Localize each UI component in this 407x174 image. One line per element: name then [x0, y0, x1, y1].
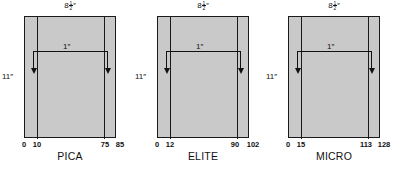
paper-sheet: [288, 16, 380, 138]
fraction-denominator: 2: [69, 6, 73, 10]
scale-left-margin: 15: [293, 140, 309, 149]
right-margin-rule: [237, 16, 238, 139]
inch-mark: ″: [73, 2, 75, 9]
scale-right-margin: 75: [98, 140, 112, 149]
left-margin-rule: [301, 16, 302, 139]
scale-right-edge: 128: [375, 140, 393, 149]
panel-micro: 812″ 11″ 1″ 0 15 113 128 MICRO: [264, 0, 400, 174]
right-margin-rule: [368, 16, 369, 139]
pitch-name-label: ELITE: [157, 150, 249, 162]
pitch-comparison-figure: 812″ 11″ 1″ 0 10 75 85 PICA 812″ 11″ 1″ …: [0, 0, 407, 174]
scale-right-margin: 90: [228, 140, 242, 149]
page-width-fraction: 12: [333, 1, 337, 10]
page-height-label: 11″: [266, 72, 277, 81]
margin-label: 1″: [194, 42, 205, 51]
panel-pica: 812″ 11″ 1″ 0 10 75 85 PICA: [0, 0, 136, 174]
right-margin-arrow-icon: [240, 51, 241, 69]
page-height-label: 11″: [135, 72, 146, 81]
margin-dimension-line: [33, 51, 107, 52]
pitch-name-label: PICA: [24, 150, 116, 162]
scale-left-edge: 0: [18, 140, 30, 149]
margin-dimension-line: [166, 51, 240, 52]
scale-left-margin: 10: [30, 140, 44, 149]
left-margin-arrow-icon: [166, 51, 167, 69]
fraction-denominator: 2: [202, 6, 206, 10]
panel-elite: 812″ 11″ 1″ 0 12 90 102 ELITE: [133, 0, 269, 174]
page-height-label: 11″: [2, 72, 13, 81]
left-margin-rule: [170, 16, 171, 139]
scale-right-edge: 85: [113, 140, 127, 149]
left-margin-arrow-icon: [33, 51, 34, 69]
margin-label: 1″: [325, 42, 336, 51]
paper-sheet: [157, 16, 249, 138]
inch-mark: ″: [337, 2, 339, 9]
page-width-label: 812″: [288, 1, 380, 11]
right-margin-arrow-icon: [107, 51, 108, 69]
inch-mark: ″: [206, 2, 208, 9]
scale-left-edge: 0: [151, 140, 163, 149]
left-margin-rule: [37, 16, 38, 139]
pitch-name-label: MICRO: [288, 150, 380, 162]
scale-left-margin: 12: [163, 140, 177, 149]
page-width-fraction: 12: [69, 1, 73, 10]
page-width-label: 812″: [24, 1, 116, 11]
scale-right-margin: 113: [357, 140, 375, 149]
left-margin-arrow-icon: [297, 51, 298, 69]
page-width-label: 812″: [157, 1, 249, 11]
fraction-denominator: 2: [333, 6, 337, 10]
margin-dimension-line: [297, 51, 371, 52]
page-width-fraction: 12: [202, 1, 206, 10]
scale-right-edge: 102: [244, 140, 262, 149]
right-margin-rule: [104, 16, 105, 139]
paper-sheet: [24, 16, 116, 138]
right-margin-arrow-icon: [371, 51, 372, 69]
margin-label: 1″: [61, 42, 72, 51]
